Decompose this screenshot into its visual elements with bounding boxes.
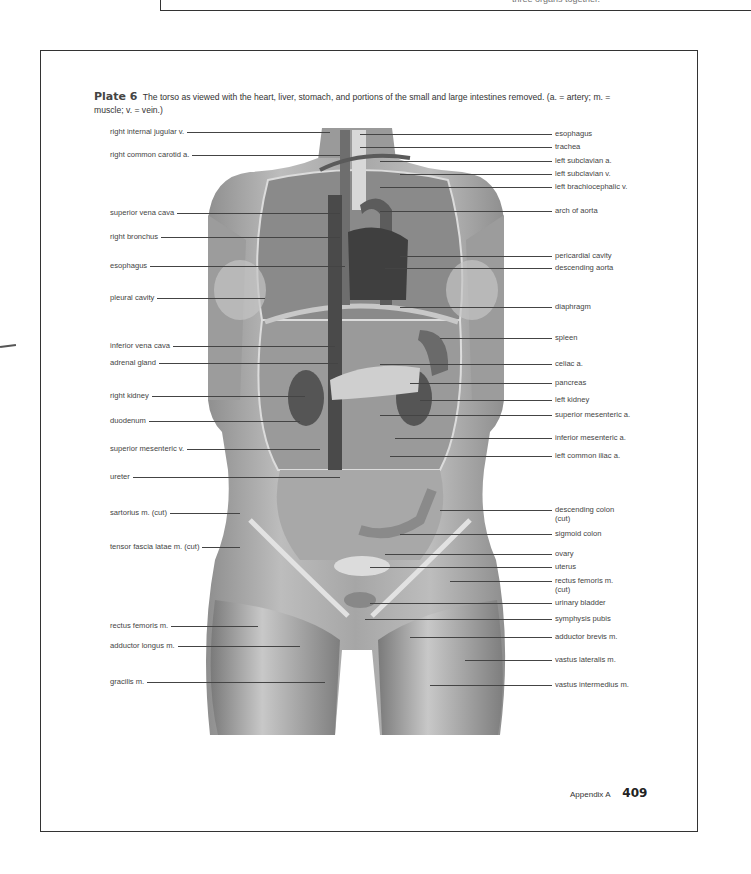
leader-line <box>177 213 340 214</box>
leader-line <box>157 298 265 299</box>
leader-line <box>385 554 552 555</box>
leader-line <box>380 211 552 212</box>
leader-line <box>171 626 258 627</box>
leader-line <box>365 619 552 620</box>
page-footer: Appendix A 409 <box>570 786 647 800</box>
label-pleural-cavity: pleural cavity <box>110 293 154 302</box>
leader-line <box>360 134 552 135</box>
leader-line <box>465 660 552 661</box>
leader-line <box>390 456 552 457</box>
leader-line <box>380 415 552 416</box>
label-celiac-a: celiac a. <box>555 359 583 368</box>
leader-line <box>360 147 552 148</box>
right-kidney <box>288 370 324 426</box>
label-left-brachiocephalic-v: left brachiocephalic v. <box>555 182 627 191</box>
leader-line <box>430 685 552 686</box>
leader-line <box>159 363 338 364</box>
leader-line <box>380 161 552 162</box>
label-superior-mesenteric-v: superior mesenteric v. <box>110 444 184 453</box>
leader-line <box>400 174 552 175</box>
label-esophagus-left: esophagus <box>110 261 147 270</box>
leader-line <box>380 187 552 188</box>
leader-line <box>440 338 552 339</box>
label-symphysis-pubis: symphysis pubis <box>555 614 611 623</box>
leader-line <box>440 510 552 511</box>
leader-line <box>385 268 552 269</box>
label-arch-of-aorta: arch of aorta <box>555 206 598 215</box>
bladder <box>344 592 376 608</box>
label-right-bronchus: right bronchus <box>110 232 158 241</box>
label-tensor-fascia-latae-m-cut: tensor fascia latae m. (cut) <box>110 542 199 551</box>
label-superior-mesenteric-a: superior mesenteric a. <box>555 410 630 419</box>
leader-line <box>420 400 552 401</box>
footer-section: Appendix A <box>570 790 610 799</box>
leader-line <box>178 646 300 647</box>
label-left-common-iliac-a: left common iliac a. <box>555 451 620 460</box>
left-breast <box>446 260 498 320</box>
leader-line <box>410 383 552 384</box>
right-breast <box>214 260 266 320</box>
leader-line <box>380 364 552 365</box>
label-descending-aorta: descending aorta <box>555 263 613 272</box>
leader-line <box>150 266 345 267</box>
leader-line <box>152 396 305 397</box>
label-diaphragm: diaphragm <box>555 302 591 311</box>
leader-line <box>187 132 330 133</box>
label-spleen: spleen <box>555 333 577 342</box>
label-sartorius-m-cut: sartorius m. (cut) <box>110 508 167 517</box>
leader-line <box>450 581 552 582</box>
heart-space <box>348 228 408 301</box>
leader-line <box>410 637 552 638</box>
label-ovary: ovary <box>555 549 574 558</box>
label-left-kidney: left kidney <box>555 395 589 404</box>
leader-line <box>147 682 325 683</box>
leader-line <box>192 155 340 156</box>
leader-line <box>133 477 340 478</box>
label-gracilis-m: gracilis m. <box>110 677 144 686</box>
label-urinary-bladder: urinary bladder <box>555 598 606 607</box>
label-right-internal-jugular-v: right internal jugular v. <box>110 127 184 136</box>
label-adductor-longus-m: adductor longus m. <box>110 641 175 650</box>
label-adductor-brevis-m: adductor brevis m. <box>555 632 617 641</box>
label-vastus-lateralis-m: vastus lateralis m. <box>555 655 616 664</box>
label-pericardial-cavity: pericardial cavity <box>555 251 612 260</box>
label-left-subclavian-v: left subclavian v. <box>555 169 611 178</box>
label-inferior-vena-cava: inferior vena cava <box>110 341 170 350</box>
label-sigmoid-colon: sigmoid colon <box>555 529 601 538</box>
label-uterus: uterus <box>555 562 576 571</box>
leader-line <box>400 307 552 308</box>
label-descending-colon-cut: descending colon (cut) <box>555 505 615 523</box>
leader-line <box>202 547 240 548</box>
leader-line <box>400 534 552 535</box>
page-number: 409 <box>622 786 647 800</box>
label-trachea: trachea <box>555 142 580 151</box>
label-adrenal-gland: adrenal gland <box>110 358 156 367</box>
label-superior-vena-cava: superior vena cava <box>110 208 174 217</box>
label-esophagus-right: esophagus <box>555 129 592 138</box>
label-right-kidney: right kidney <box>110 391 149 400</box>
label-inferior-mesenteric-a: inferior mesenteric a. <box>555 433 626 442</box>
label-ureter: ureter <box>110 472 130 481</box>
leader-line <box>170 513 240 514</box>
label-pancreas: pancreas <box>555 378 586 387</box>
label-left-subclavian-a: left subclavian a. <box>555 156 612 165</box>
leader-line <box>370 603 552 604</box>
leader-line <box>400 256 552 257</box>
leader-line <box>161 237 340 238</box>
label-rectus-femoris-m-cut: rectus femoris m. (cut) <box>555 576 615 594</box>
leader-line <box>187 449 320 450</box>
label-vastus-intermedius-m: vastus intermedius m. <box>555 680 629 689</box>
leader-line <box>370 567 552 568</box>
leader-line <box>173 346 335 347</box>
trachea <box>352 130 366 210</box>
label-rectus-femoris-m: rectus femoris m. <box>110 621 168 630</box>
leader-line <box>149 421 300 422</box>
label-right-common-carotid-a: right common carotid a. <box>110 150 189 159</box>
leader-line <box>395 438 552 439</box>
label-duodenum: duodenum <box>110 416 146 425</box>
